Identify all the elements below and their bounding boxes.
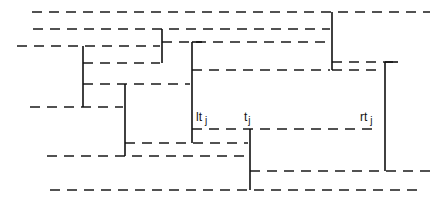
- label-rt-j: rtj: [360, 110, 373, 126]
- time-labels: ltj tj rtj: [196, 110, 373, 126]
- diagram-canvas: ltj tj rtj: [0, 0, 447, 202]
- vertical-connectors: [83, 12, 398, 190]
- interval-diagram: ltj tj rtj: [0, 0, 447, 202]
- label-t-j: tj: [244, 110, 251, 126]
- dashed-intervals: [17, 12, 432, 190]
- label-lt-j: ltj: [196, 110, 207, 126]
